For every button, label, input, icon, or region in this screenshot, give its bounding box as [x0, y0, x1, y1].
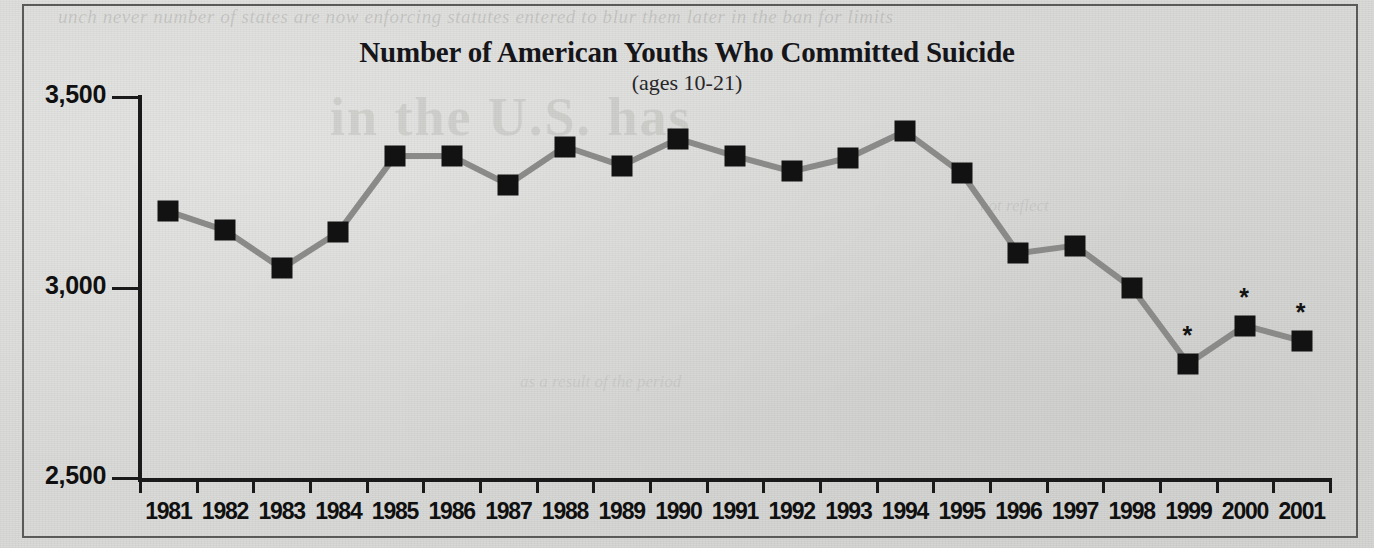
data-point-marker [895, 121, 916, 142]
data-point-marker [555, 136, 576, 157]
y-axis-tick-label: 2,500 [0, 461, 106, 490]
x-axis-tick [989, 478, 992, 493]
x-axis-tick [1216, 478, 1219, 493]
x-axis-tick-label: 1998 [1108, 498, 1154, 525]
y-axis-tick-label: 3,500 [0, 80, 106, 109]
x-axis-tick-label: 1985 [372, 498, 418, 525]
chart-title: Number of American Youths Who Committed … [0, 36, 1374, 69]
data-point-marker [951, 163, 972, 184]
x-axis-tick [1272, 478, 1275, 493]
x-axis-tick-label: 1997 [1052, 498, 1098, 525]
x-axis-tick [422, 478, 425, 493]
x-axis-tick [819, 478, 822, 493]
x-axis-tick-label: 1987 [485, 498, 531, 525]
x-axis-tick-label: 1995 [938, 498, 984, 525]
y-axis-tick [112, 96, 138, 99]
x-axis-tick [196, 478, 199, 493]
x-axis-tick-label: 1990 [655, 498, 701, 525]
x-axis-tick-label: 1999 [1165, 498, 1211, 525]
x-axis-tick [932, 478, 935, 493]
x-axis-tick-label: 2000 [1222, 498, 1268, 525]
x-axis-tick [649, 478, 652, 493]
data-point-marker [838, 147, 859, 168]
x-axis-tick-label: 1991 [712, 498, 758, 525]
data-point-marker [668, 128, 689, 149]
x-axis-tick-label: 1983 [258, 498, 304, 525]
x-axis-tick [1102, 478, 1105, 493]
ghost-text-lower-2: as a result of the period [520, 372, 681, 392]
x-axis-tick-label: 1982 [202, 498, 248, 525]
data-point-marker [158, 201, 179, 222]
data-point-marker [725, 146, 746, 167]
x-axis-tick-label: 1993 [825, 498, 871, 525]
data-point-marker [385, 146, 406, 167]
y-axis-tick [112, 477, 138, 480]
x-axis-tick-label: 1988 [542, 498, 588, 525]
data-point-marker [271, 258, 292, 279]
data-point-marker [215, 220, 236, 241]
data-point-marker [1235, 315, 1256, 336]
data-point-marker [781, 161, 802, 182]
ghost-text-top: unch never number of states are now enfo… [58, 6, 893, 28]
x-axis-tick-label: 1994 [882, 498, 928, 525]
footnote-star: * [1239, 285, 1249, 310]
x-axis-tick [1046, 478, 1049, 493]
data-point-marker [441, 146, 462, 167]
x-axis-tick [366, 478, 369, 493]
x-axis-tick [139, 478, 142, 493]
x-axis-tick-label: 1984 [315, 498, 361, 525]
x-axis-tick-label: 1989 [598, 498, 644, 525]
scanned-figure-page: unch never number of states are now enfo… [0, 0, 1374, 548]
x-axis-tick [479, 478, 482, 493]
x-axis-tick [309, 478, 312, 493]
x-axis-tick-label: 1981 [145, 498, 191, 525]
x-axis-tick [762, 478, 765, 493]
x-axis-tick-label: 2001 [1278, 498, 1324, 525]
footnote-star: * [1296, 300, 1306, 325]
x-axis-tick [876, 478, 879, 493]
x-axis-line [138, 478, 1330, 482]
data-point-marker [1008, 243, 1029, 264]
data-point-marker [328, 222, 349, 243]
x-axis-tick-label: 1992 [768, 498, 814, 525]
x-axis-tick [252, 478, 255, 493]
x-axis-tick [1159, 478, 1162, 493]
data-point-marker [1291, 330, 1312, 351]
x-axis-tick [1329, 478, 1332, 493]
y-axis-tick [112, 287, 138, 290]
data-point-marker [611, 155, 632, 176]
x-axis-tick [592, 478, 595, 493]
data-point-marker [498, 174, 519, 195]
data-point-marker [1121, 277, 1142, 298]
x-axis-tick [706, 478, 709, 493]
y-axis-tick-label: 3,000 [0, 271, 106, 300]
ghost-text-lower: not reflect [980, 196, 1049, 216]
data-point-marker [1178, 353, 1199, 374]
y-axis-line [138, 95, 142, 482]
x-axis-tick-label: 1986 [428, 498, 474, 525]
data-point-marker [1065, 235, 1086, 256]
chart-subtitle: (ages 10-21) [0, 70, 1374, 96]
x-axis-tick-label: 1996 [995, 498, 1041, 525]
x-axis-tick [536, 478, 539, 493]
footnote-star: * [1182, 323, 1192, 348]
